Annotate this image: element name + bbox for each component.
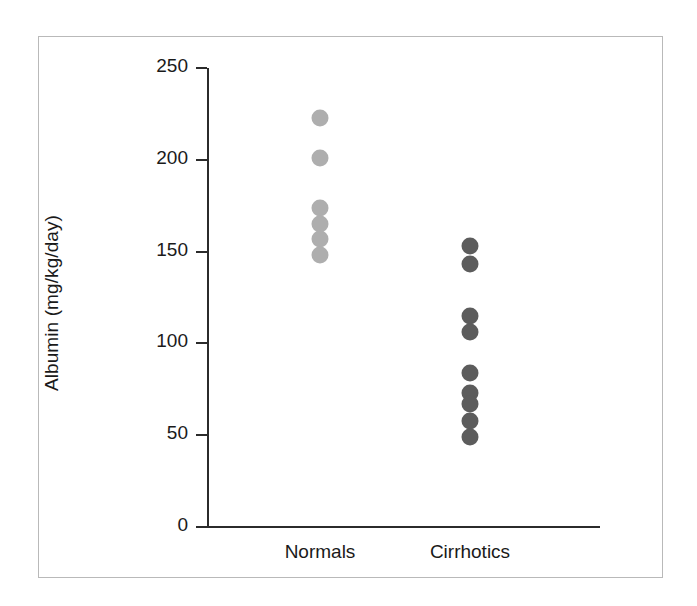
- data-point-cirrhotics: [462, 256, 479, 273]
- y-tick-mark: [196, 251, 207, 253]
- y-tick-label: 50: [128, 422, 188, 444]
- data-point-normals: [312, 247, 329, 264]
- data-point-cirrhotics: [462, 364, 479, 381]
- y-axis-line: [207, 68, 209, 528]
- scatter-plot: Albumin (mg/kg/day) 250200150100500 Norm…: [0, 0, 697, 606]
- y-tick-label-wrap: 250: [120, 68, 188, 69]
- y-tick-label-wrap: 100: [120, 343, 188, 344]
- y-tick-mark: [196, 159, 207, 161]
- data-point-cirrhotics: [462, 324, 479, 341]
- y-tick-label-wrap: 50: [120, 435, 188, 436]
- y-tick-label: 200: [128, 147, 188, 169]
- data-point-cirrhotics: [462, 307, 479, 324]
- data-point-normals: [312, 230, 329, 247]
- data-point-cirrhotics: [462, 429, 479, 446]
- y-axis-title: Albumin (mg/kg/day): [41, 173, 63, 433]
- data-point-normals: [312, 199, 329, 216]
- y-tick-label-wrap: 200: [120, 160, 188, 161]
- x-axis-line: [207, 526, 600, 528]
- y-tick-label-wrap: 150: [120, 252, 188, 253]
- y-tick-label: 150: [128, 239, 188, 261]
- y-tick-label: 0: [128, 514, 188, 536]
- y-tick-label-wrap: 0: [120, 527, 188, 528]
- y-tick-mark: [196, 434, 207, 436]
- data-point-cirrhotics: [462, 238, 479, 255]
- data-point-cirrhotics: [462, 395, 479, 412]
- y-tick-mark: [196, 67, 207, 69]
- data-point-normals: [312, 149, 329, 166]
- y-tick-mark: [196, 526, 207, 528]
- data-point-normals: [312, 109, 329, 126]
- x-category-label-cirrhotics: Cirrhotics: [380, 541, 560, 563]
- y-tick-label: 100: [128, 330, 188, 352]
- y-tick-mark: [196, 342, 207, 344]
- y-tick-label: 250: [128, 55, 188, 77]
- data-point-cirrhotics: [462, 412, 479, 429]
